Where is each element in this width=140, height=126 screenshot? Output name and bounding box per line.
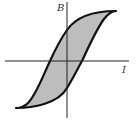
x-axis-label: I	[121, 64, 127, 75]
hysteresis-loop-area	[16, 11, 116, 108]
hysteresis-diagram: B I	[0, 0, 140, 126]
y-axis-label: B	[56, 2, 64, 13]
diagram-canvas: B I	[0, 0, 140, 126]
